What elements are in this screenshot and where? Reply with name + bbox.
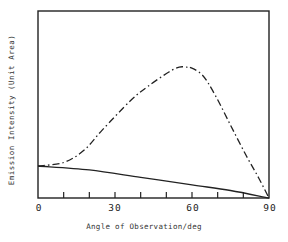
- x-tick-label-0: 0: [36, 202, 43, 213]
- x-axis-label: Angle of Observation/deg: [0, 222, 288, 231]
- x-axis-ticks: [64, 192, 244, 198]
- x-tick-label-30: 30: [108, 202, 121, 213]
- dash-dot-series-line: [38, 67, 269, 198]
- chart-canvas: [0, 0, 288, 242]
- solid-series-line: [38, 166, 269, 198]
- plot-frame: [38, 11, 269, 198]
- x-tick-label-90: 90: [263, 202, 276, 213]
- y-axis-label: Emission Intensity (Unit Area): [7, 10, 17, 210]
- x-tick-label-60: 60: [186, 202, 199, 213]
